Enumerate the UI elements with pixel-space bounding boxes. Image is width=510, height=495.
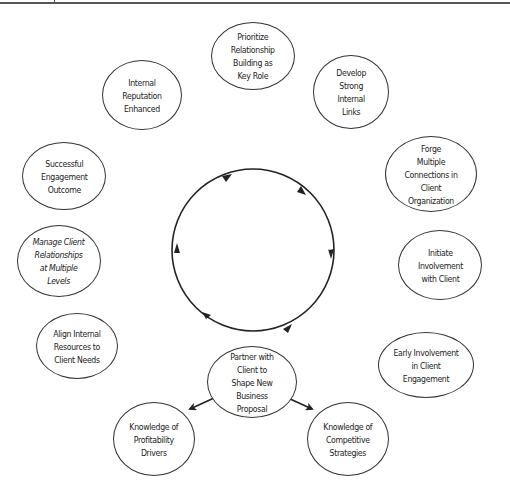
cycle-circle	[172, 169, 334, 331]
node-internal-reputation: Internal Reputation Enhanced	[102, 60, 182, 130]
node-successful-outcome: Successful Engagement Outcome	[22, 142, 106, 210]
node-competitive-strategies: Knowledge of Competitive Strategies	[307, 402, 389, 476]
node-forge-connections: Forge Multiple Connections in Client Org…	[385, 136, 477, 212]
node-profitability-drivers: Knowledge of Profitability Drivers	[113, 402, 195, 476]
node-manage-relationships: Manage Client Relationships at Multiple …	[17, 225, 101, 297]
arrow-left-icon	[174, 243, 180, 253]
node-prioritize-relationship: Prioritize Relationship Building as Key …	[211, 22, 295, 90]
edge-partner-to-competitive	[288, 398, 312, 409]
node-develop-internal-links: Develop Strong Internal Links	[313, 55, 389, 129]
node-early-involvement: Early Involvement in Client Engagement	[378, 332, 474, 398]
node-align-resources: Align Internal Resources to Client Needs	[36, 313, 118, 379]
node-partner-with-client: Partner with Client to Shape New Busines…	[207, 346, 297, 418]
node-initiate-involvement: Initiate Involvement with Client	[398, 230, 482, 300]
edge-partner-to-profitability	[190, 398, 214, 409]
